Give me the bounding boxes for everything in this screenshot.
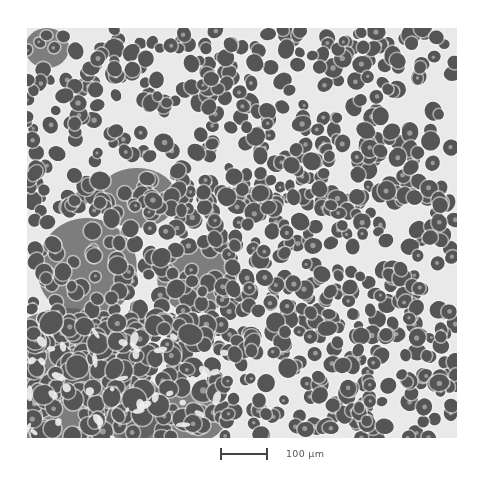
scale-bar-right-tick <box>266 448 268 460</box>
micrograph-image <box>27 28 457 438</box>
cell-texture <box>27 28 457 438</box>
scale-bar-line <box>221 453 267 455</box>
scale-bar <box>220 448 268 460</box>
scale-bar-label: 100 µm <box>286 448 324 459</box>
